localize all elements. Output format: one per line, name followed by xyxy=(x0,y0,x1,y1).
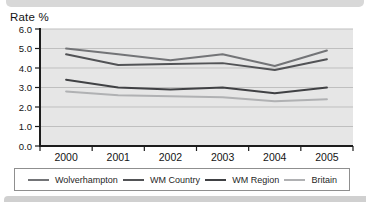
legend-item-wm-region: WM Region xyxy=(205,175,279,185)
legend-label: WM Region xyxy=(232,175,279,185)
legend-line-swatch xyxy=(284,179,305,181)
y-tick-label: 4.0 xyxy=(19,63,32,74)
x-tick-label: 2002 xyxy=(159,151,183,163)
legend-label: Britain xyxy=(311,175,337,185)
legend-item-wolverhampton: Wolverhampton xyxy=(28,175,118,185)
x-tick-label: 2001 xyxy=(107,151,131,163)
x-tick-label: 2005 xyxy=(315,151,339,163)
x-tick-label: 2000 xyxy=(54,151,78,163)
legend-item-wm-country: WM Country xyxy=(123,175,200,185)
bottom-divider-bar xyxy=(4,196,366,202)
x-tick-label: 2003 xyxy=(211,151,235,163)
legend-line-swatch xyxy=(123,179,144,181)
y-tick-label: 2.0 xyxy=(19,102,32,113)
legend-line-swatch xyxy=(205,179,226,181)
legend-item-britain: Britain xyxy=(284,175,337,185)
y-tick-label: 5.0 xyxy=(19,43,32,54)
line-chart: 6.05.04.03.02.01.00.02000200120022003200… xyxy=(0,26,366,168)
y-tick-label: 0.0 xyxy=(19,141,32,152)
legend-label: Wolverhampton xyxy=(55,175,118,185)
y-tick-label: 6.0 xyxy=(19,26,32,35)
x-tick-label: 2004 xyxy=(263,151,287,163)
y-tick-label: 3.0 xyxy=(19,82,32,93)
chart-legend: Wolverhampton WM Country WM Region Brita… xyxy=(14,168,350,191)
unemployment-rate-chart-panel: Rate % 6.05.04.03.02.01.00.0200020012002… xyxy=(0,0,366,202)
top-divider-bar xyxy=(6,0,364,7)
legend-line-swatch xyxy=(28,179,49,181)
y-tick-label: 1.0 xyxy=(19,121,32,132)
legend-label: WM Country xyxy=(150,175,200,185)
chart-title: Rate % xyxy=(10,11,49,23)
